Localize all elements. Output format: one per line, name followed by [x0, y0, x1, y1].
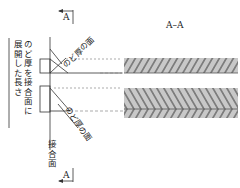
section-lower-plate-upper — [124, 88, 238, 109]
section-marker-top-label: A — [63, 12, 70, 22]
section-upper-plate — [124, 58, 238, 73]
expanded-length-label-line2: 展開した長さ — [12, 40, 22, 97]
section-marker-bottom-label: A — [63, 170, 70, 180]
expanded-length-label: のど厚を接合面に 展開した長さ — [12, 40, 32, 116]
section-lower-plate-lower — [124, 109, 238, 118]
weld-throat-diagram — [0, 0, 240, 188]
joint-face-label: 接合面 — [46, 140, 56, 169]
expanded-length-label-line1: のど厚を接合面に — [22, 40, 32, 116]
section-title: A–A — [166, 20, 184, 30]
